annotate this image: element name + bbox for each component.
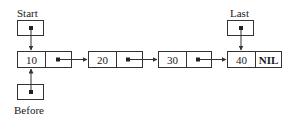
last-pointer-dot <box>239 26 243 30</box>
pointer-arrows <box>0 0 294 121</box>
before-pointer-dot <box>29 90 33 94</box>
start-pointer-dot <box>29 26 33 30</box>
